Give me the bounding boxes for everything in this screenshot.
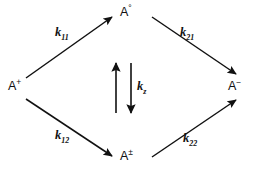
rate-subscript-k11: 11	[61, 33, 69, 42]
reaction-scheme-diagram: A+ A° A± A− k11 k21 k12 k22 kz	[0, 0, 263, 175]
arrow-a-plus-to-a-zero	[26, 17, 112, 78]
species-superscript-a-minus: −	[236, 77, 241, 87]
species-node-a-minus: A−	[228, 80, 241, 93]
rate-constant-k22: k22	[183, 132, 197, 145]
species-superscript-a-plus: +	[16, 77, 21, 87]
species-node-a-plus: A+	[8, 80, 21, 93]
rate-subscript-k12: 12	[61, 136, 69, 145]
rate-subscript-kz: z	[143, 87, 146, 96]
species-superscript-a-zero: °	[128, 3, 131, 13]
rate-subscript-k22: 22	[189, 139, 197, 148]
rate-constant-kz: kz	[137, 80, 146, 93]
rate-constant-k12: k12	[55, 129, 69, 142]
species-node-a-zero: A°	[120, 6, 132, 19]
species-superscript-a-pm: ±	[128, 147, 133, 157]
rate-constant-k21: k21	[180, 26, 194, 39]
rate-subscript-k21: 21	[186, 33, 194, 42]
rate-constant-k11: k11	[55, 26, 69, 39]
species-node-a-pm: A±	[120, 150, 133, 163]
arrow-a-pm-to-a-minus	[152, 100, 236, 157]
arrow-a-plus-to-a-pm	[26, 99, 112, 156]
